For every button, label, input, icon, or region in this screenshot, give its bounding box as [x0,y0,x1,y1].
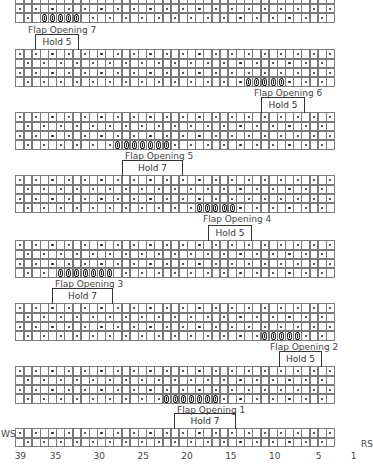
dot-icon [215,198,217,200]
dot-icon [141,125,143,127]
dot-icon [231,244,233,246]
dot-icon [215,389,217,391]
dot-icon [35,53,37,55]
flap-stitch-icon [164,141,169,149]
hold-bracket: Hold 7 [52,288,113,304]
dot-icon [190,125,192,127]
dot-icon [35,135,37,137]
dot-icon [19,135,21,137]
dot-icon [305,441,307,443]
dot-icon [288,441,290,443]
dot-icon [166,432,168,434]
dot-icon [117,389,119,391]
dot-icon [239,81,241,83]
dot-icon [198,263,200,265]
flap-stitch-icon [271,78,276,86]
dot-icon [158,335,160,337]
stitch-cell [326,13,335,22]
stitch-cell [326,4,335,13]
flap-stitch-icon [91,269,96,277]
stitch-cell [326,268,335,277]
dot-icon [215,135,217,137]
x-axis-tick: 5 [316,451,322,461]
right-side-label: RS [361,439,373,449]
dot-icon [264,370,266,372]
dot-icon [182,135,184,137]
dot-icon [190,144,192,146]
dot-icon [264,8,266,10]
dot-icon [297,53,299,55]
dot-icon [305,17,307,19]
dot-icon [109,335,111,337]
dot-icon [60,188,62,190]
x-axis-tick: 39 [15,451,26,461]
dot-icon [280,307,282,309]
flap-stitch-icon [58,269,63,277]
dot-icon [198,244,200,246]
flap-stitch-icon [83,269,88,277]
dot-icon [133,370,135,372]
dot-icon [280,72,282,74]
block-flap-5 [16,113,335,150]
dot-icon [51,244,53,246]
dot-icon [207,316,209,318]
dot-icon [158,316,160,318]
dot-icon [84,389,86,391]
dot-icon [109,144,111,146]
dot-icon [272,398,274,400]
stitch-cell [326,68,335,77]
dot-icon [125,207,127,209]
dot-icon [215,8,217,10]
dot-icon [51,198,53,200]
dot-icon [76,207,78,209]
dot-icon [272,253,274,255]
flap-stitch-icon [74,269,79,277]
dot-icon [149,8,151,10]
dot-icon [158,398,160,400]
dot-icon [51,72,53,74]
dot-icon [27,253,29,255]
dot-icon [256,441,258,443]
dot-icon [51,135,53,137]
hold-bracket: Hold 5 [279,351,322,367]
dot-icon [198,198,200,200]
stitch-cell [326,394,335,403]
dot-icon [27,62,29,64]
dot-icon [321,81,323,83]
dot-icon [305,144,307,146]
dot-icon [60,398,62,400]
dot-icon [149,198,151,200]
dot-icon [231,307,233,309]
dot-icon [198,8,200,10]
dot-icon [198,179,200,181]
dot-icon [117,432,119,434]
flap-stitch-icon [140,141,145,149]
dot-icon [174,272,176,274]
dot-icon [248,135,250,137]
flap-stitch-icon [213,204,218,212]
dot-icon [76,379,78,381]
dot-icon [166,263,168,265]
dot-icon [288,398,290,400]
dot-icon [68,72,70,74]
dot-icon [76,335,78,337]
dot-icon [231,8,233,10]
dot-icon [92,316,94,318]
flap-stitch-icon [42,14,47,22]
dot-icon [43,272,45,274]
dot-icon [190,188,192,190]
dot-icon [92,207,94,209]
dot-icon [182,53,184,55]
flap-stitch-icon [115,141,120,149]
dot-icon [207,379,209,381]
dot-icon [288,144,290,146]
dot-icon [43,316,45,318]
dot-icon [280,53,282,55]
dot-icon [288,188,290,190]
dot-icon [84,326,86,328]
dot-icon [297,389,299,391]
flap-stitch-icon [262,332,267,340]
dot-icon [92,81,94,83]
dot-icon [149,116,151,118]
dot-icon [280,179,282,181]
